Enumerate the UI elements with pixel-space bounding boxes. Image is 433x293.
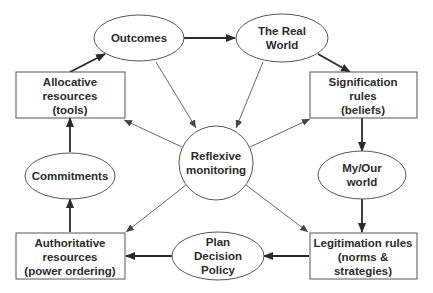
node-real-world: The Real World <box>236 14 328 62</box>
edge-realworld-to-signification <box>318 54 350 72</box>
edge-outcomes-to-reflexive <box>156 62 196 128</box>
node-commitments: Commitments <box>25 153 115 199</box>
node-outcomes: Outcomes <box>94 15 184 61</box>
node-label: World <box>266 39 298 51</box>
node-label: (power ordering) <box>24 265 116 277</box>
node-label: Signification <box>329 76 398 88</box>
edge-realworld-to-reflexive <box>236 62 263 128</box>
node-label: rules <box>349 90 377 102</box>
node-label: My/Our <box>342 162 382 174</box>
edge-reflexive-to-allocative <box>124 120 182 147</box>
reflexive-monitoring-diagram: Outcomes The Real World Allocative resou… <box>0 0 433 293</box>
node-label: strategies) <box>334 265 392 277</box>
node-label: The Real <box>258 25 306 37</box>
node-label: (beliefs) <box>341 104 385 116</box>
edge-reflexive-to-authoritative <box>126 185 186 232</box>
node-label: (tools) <box>52 104 87 116</box>
node-label: Commitments <box>32 170 109 182</box>
node-my-our-world: My/Our world <box>318 151 406 199</box>
node-label: Decision <box>194 250 242 262</box>
node-label: (norms & <box>338 251 388 263</box>
edge-reflexive-to-signification <box>250 119 310 147</box>
node-label: Reflexive <box>191 150 242 162</box>
edge-allocative-to-outcomes <box>70 54 105 72</box>
node-plan-decision-policy: Plan Decision Policy <box>172 232 264 280</box>
node-label: monitoring <box>186 164 246 176</box>
node-label: Policy <box>201 264 235 276</box>
node-label: Plan <box>206 236 230 248</box>
node-label: Authoritative <box>35 237 106 249</box>
node-label: resources <box>43 251 98 263</box>
node-signification-rules: Signification rules (beliefs) <box>310 72 417 118</box>
node-legitimation-rules: Legitimation rules (norms & strategies) <box>310 233 417 279</box>
node-label: Allocative <box>43 76 97 88</box>
node-label: resources <box>43 90 98 102</box>
node-reflexive-monitoring: Reflexive monitoring <box>179 126 253 200</box>
edge-reflexive-to-legitimation <box>246 185 308 232</box>
node-authoritative-resources: Authoritative resources (power ordering) <box>16 233 125 279</box>
node-label: Legitimation rules <box>313 237 412 249</box>
node-allocative-resources: Allocative resources (tools) <box>16 72 125 118</box>
node-label: Outcomes <box>111 32 167 44</box>
node-label: world <box>346 176 378 188</box>
